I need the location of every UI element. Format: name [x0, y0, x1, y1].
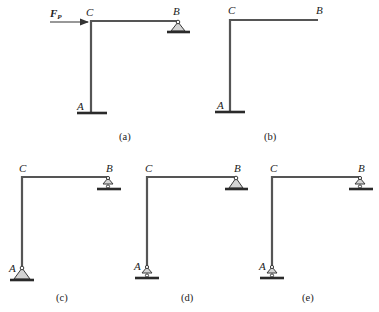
label-a: A — [8, 262, 16, 274]
frame-member — [272, 177, 360, 266]
caption-c: (c) — [56, 292, 68, 304]
label-a: A — [216, 99, 224, 111]
label-b: B — [316, 4, 323, 16]
frame-member — [91, 21, 178, 113]
frame-member — [230, 20, 318, 112]
roller-support-icon — [349, 176, 373, 189]
figure-e: C B A (e) — [258, 162, 373, 304]
caption-a: (a) — [119, 131, 131, 143]
label-b: B — [358, 162, 365, 174]
force-label: FP — [49, 7, 62, 21]
label-b: B — [106, 162, 113, 174]
label-c: C — [145, 162, 153, 174]
frame-member — [22, 177, 108, 268]
label-a: A — [258, 260, 266, 272]
caption-e: (e) — [302, 292, 314, 304]
figure-b: C B A (b) — [215, 4, 323, 143]
figure-c: C B A (c) — [8, 162, 121, 304]
label-c: C — [228, 4, 236, 16]
frame-member — [147, 177, 236, 266]
label-c: C — [19, 162, 27, 174]
frame-diagrams: FP C B A (a) C B A (b) — [0, 0, 379, 312]
label-c: C — [270, 162, 278, 174]
label-a: A — [76, 100, 84, 112]
label-b: B — [173, 5, 180, 17]
caption-d: (d) — [181, 292, 194, 304]
label-a: A — [133, 260, 141, 272]
roller-support-icon — [97, 176, 121, 189]
label-c: C — [86, 6, 94, 18]
caption-b: (b) — [264, 131, 277, 143]
pin-support-icon — [225, 176, 248, 189]
figure-d: C B A (d) — [133, 162, 248, 304]
label-b: B — [234, 162, 241, 174]
figure-a: FP C B A (a) — [49, 5, 190, 143]
